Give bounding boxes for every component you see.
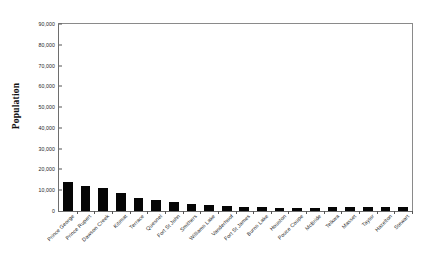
y-tick-label: 10,000: [39, 187, 59, 193]
plot-area: 010,00020,00030,00040,00050,00060,00070,…: [58, 23, 413, 212]
bar-series: [59, 24, 412, 211]
y-tick-label: 60,000: [39, 83, 59, 89]
y-tick-label: 20,000: [39, 166, 59, 172]
y-tick-mark: [59, 65, 62, 66]
x-tick-label: Kitimat: [112, 213, 128, 229]
y-tick-mark: [59, 190, 62, 191]
y-tick-label: 90,000: [39, 21, 59, 27]
bar: [222, 206, 232, 211]
y-axis-title-wrapper: Population: [6, 0, 26, 212]
x-tick-label: Masset: [341, 213, 358, 230]
bar: [81, 186, 91, 211]
bar: [310, 208, 320, 211]
bar: [292, 208, 302, 211]
y-tick-mark: [59, 107, 62, 108]
y-tick-mark: [59, 86, 62, 87]
y-tick-label: 50,000: [39, 104, 59, 110]
y-tick-mark: [59, 44, 62, 45]
bar: [363, 207, 373, 211]
bar: [98, 188, 108, 211]
x-tick-label: Telkwa: [324, 213, 340, 229]
bar: [398, 207, 408, 211]
y-tick-label: 40,000: [39, 125, 59, 131]
y-tick-mark: [59, 148, 62, 149]
y-tick-mark: [59, 169, 62, 170]
x-tick-label: Terrace: [128, 213, 145, 230]
bar: [328, 207, 338, 211]
population-bar-chart: Population 010,00020,00030,00040,00050,0…: [0, 0, 440, 263]
x-tick-label: Hazelton: [373, 213, 393, 233]
bar: [187, 204, 197, 211]
bar: [151, 200, 161, 211]
y-tick-label: 80,000: [39, 42, 59, 48]
bar: [134, 198, 144, 211]
y-tick-label: 70,000: [39, 63, 59, 69]
bar: [257, 207, 267, 211]
bar: [204, 205, 214, 211]
x-tick-label: Taylor: [360, 213, 375, 228]
bar: [63, 182, 73, 211]
y-tick-mark: [59, 24, 62, 25]
bar: [239, 207, 249, 211]
bar: [275, 208, 285, 211]
y-tick-label: 30,000: [39, 146, 59, 152]
y-tick-mark: [59, 127, 62, 128]
bar: [381, 207, 391, 211]
x-tick-label: Stewart: [393, 213, 410, 230]
bar: [116, 193, 126, 211]
bar: [169, 202, 179, 211]
y-axis-title: Population: [11, 83, 21, 129]
x-axis-tick-labels: Prince GeorgePrince RupertDawson CreekKi…: [58, 213, 413, 263]
x-tick-label: McBride: [304, 213, 322, 231]
bar: [345, 207, 355, 211]
